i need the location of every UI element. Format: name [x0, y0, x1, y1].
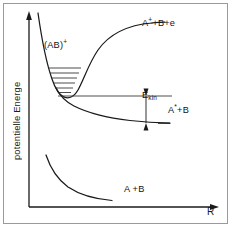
label-molecular-ion-superscript: +	[63, 38, 67, 45]
y-axis-arrowhead	[26, 11, 32, 20]
figure-frame	[4, 4, 228, 224]
x-axis-title: R	[207, 206, 214, 217]
label-ekin-subscript: kin	[148, 94, 157, 101]
potential-energy-diagram: potentielle Energe R A++B+e (AB)+ Ekin A…	[0, 0, 232, 231]
ground-state-curve	[46, 155, 112, 201]
label-molecular-ion-base: (AB)	[44, 40, 63, 50]
label-excited-rest: +B	[177, 105, 189, 115]
y-axis-title: potentielle Energe	[9, 62, 23, 180]
plot-canvas	[0, 0, 232, 231]
label-ground-state: A +B	[124, 184, 144, 194]
ekin-lower-arrowhead	[144, 123, 149, 131]
label-ion-rest: +B+e	[152, 18, 175, 28]
ground-curve-path	[46, 155, 112, 201]
ionic-curve-outer-branch	[64, 23, 152, 98]
label-ekin: Ekin	[142, 90, 157, 100]
label-excited-neutral: A*+B	[168, 105, 189, 115]
label-molecular-ion: (AB)+	[44, 40, 67, 50]
label-ionization-continuum: A++B+e	[142, 18, 175, 28]
ionic-curve-inner-wall	[38, 13, 64, 97]
